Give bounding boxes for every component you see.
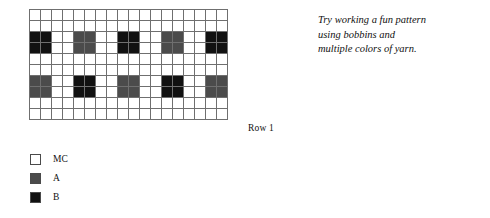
chart-cell[interactable] xyxy=(162,87,173,98)
chart-cell[interactable] xyxy=(206,32,217,43)
chart-cell[interactable] xyxy=(85,76,96,87)
chart-cell[interactable] xyxy=(96,87,107,98)
chart-cell[interactable] xyxy=(107,65,118,76)
chart-cell[interactable] xyxy=(184,76,195,87)
chart-cell[interactable] xyxy=(63,21,74,32)
chart-cell[interactable] xyxy=(74,10,85,21)
chart-cell[interactable] xyxy=(96,54,107,65)
chart-cell[interactable] xyxy=(206,109,217,120)
chart-cell[interactable] xyxy=(129,32,140,43)
chart-cell[interactable] xyxy=(162,10,173,21)
chart-cell[interactable] xyxy=(151,76,162,87)
chart-cell[interactable] xyxy=(52,21,63,32)
chart-cell[interactable] xyxy=(151,10,162,21)
chart-cell[interactable] xyxy=(162,32,173,43)
chart-cell[interactable] xyxy=(41,43,52,54)
chart-cell[interactable] xyxy=(30,32,41,43)
chart-cell[interactable] xyxy=(118,87,129,98)
chart-cell[interactable] xyxy=(184,109,195,120)
chart-cell[interactable] xyxy=(52,43,63,54)
chart-cell[interactable] xyxy=(52,10,63,21)
chart-cell[interactable] xyxy=(195,65,206,76)
chart-cell[interactable] xyxy=(195,21,206,32)
chart-cell[interactable] xyxy=(107,76,118,87)
chart-cell[interactable] xyxy=(195,32,206,43)
chart-cell[interactable] xyxy=(217,109,228,120)
chart-cell[interactable] xyxy=(217,43,228,54)
chart-cell[interactable] xyxy=(85,109,96,120)
chart-cell[interactable] xyxy=(129,65,140,76)
chart-cell[interactable] xyxy=(206,98,217,109)
chart-cell[interactable] xyxy=(30,43,41,54)
chart-cell[interactable] xyxy=(173,32,184,43)
chart-cell[interactable] xyxy=(217,32,228,43)
chart-cell[interactable] xyxy=(74,65,85,76)
chart-cell[interactable] xyxy=(173,87,184,98)
chart-cell[interactable] xyxy=(41,87,52,98)
chart-cell[interactable] xyxy=(96,65,107,76)
chart-cell[interactable] xyxy=(118,32,129,43)
chart-cell[interactable] xyxy=(107,21,118,32)
chart-cell[interactable] xyxy=(85,65,96,76)
chart-cell[interactable] xyxy=(129,76,140,87)
chart-cell[interactable] xyxy=(129,10,140,21)
chart-cell[interactable] xyxy=(118,65,129,76)
chart-cell[interactable] xyxy=(129,109,140,120)
chart-cell[interactable] xyxy=(184,98,195,109)
chart-cell[interactable] xyxy=(206,87,217,98)
chart-cell[interactable] xyxy=(184,10,195,21)
chart-cell[interactable] xyxy=(151,109,162,120)
chart-cell[interactable] xyxy=(118,54,129,65)
chart-cell[interactable] xyxy=(107,109,118,120)
chart-cell[interactable] xyxy=(96,43,107,54)
chart-cell[interactable] xyxy=(217,21,228,32)
chart-cell[interactable] xyxy=(195,76,206,87)
chart-cell[interactable] xyxy=(85,32,96,43)
chart-cell[interactable] xyxy=(74,76,85,87)
chart-cell[interactable] xyxy=(217,10,228,21)
chart-cell[interactable] xyxy=(52,87,63,98)
chart-cell[interactable] xyxy=(129,87,140,98)
chart-cell[interactable] xyxy=(173,65,184,76)
chart-cell[interactable] xyxy=(118,76,129,87)
chart-cell[interactable] xyxy=(85,98,96,109)
chart-cell[interactable] xyxy=(195,87,206,98)
chart-cell[interactable] xyxy=(96,21,107,32)
chart-cell[interactable] xyxy=(217,65,228,76)
chart-cell[interactable] xyxy=(74,32,85,43)
chart-cell[interactable] xyxy=(140,98,151,109)
chart-cell[interactable] xyxy=(206,76,217,87)
chart-cell[interactable] xyxy=(41,54,52,65)
chart-cell[interactable] xyxy=(162,54,173,65)
chart-cell[interactable] xyxy=(96,76,107,87)
chart-cell[interactable] xyxy=(173,21,184,32)
chart-cell[interactable] xyxy=(195,54,206,65)
chart-cell[interactable] xyxy=(41,10,52,21)
chart-cell[interactable] xyxy=(30,109,41,120)
chart-cell[interactable] xyxy=(30,76,41,87)
chart-cell[interactable] xyxy=(63,32,74,43)
chart-cell[interactable] xyxy=(96,32,107,43)
chart-cell[interactable] xyxy=(41,21,52,32)
chart-cell[interactable] xyxy=(140,43,151,54)
chart-cell[interactable] xyxy=(162,98,173,109)
chart-cell[interactable] xyxy=(173,43,184,54)
chart-cell[interactable] xyxy=(129,21,140,32)
chart-cell[interactable] xyxy=(52,65,63,76)
chart-cell[interactable] xyxy=(162,76,173,87)
chart-cell[interactable] xyxy=(85,21,96,32)
chart-cell[interactable] xyxy=(74,54,85,65)
chart-cell[interactable] xyxy=(74,98,85,109)
chart-cell[interactable] xyxy=(85,43,96,54)
chart-cell[interactable] xyxy=(96,98,107,109)
chart-cell[interactable] xyxy=(206,10,217,21)
chart-cell[interactable] xyxy=(52,76,63,87)
chart-cell[interactable] xyxy=(129,98,140,109)
chart-cell[interactable] xyxy=(217,98,228,109)
chart-cell[interactable] xyxy=(107,54,118,65)
chart-cell[interactable] xyxy=(129,43,140,54)
chart-cell[interactable] xyxy=(118,109,129,120)
chart-cell[interactable] xyxy=(96,109,107,120)
chart-cell[interactable] xyxy=(195,10,206,21)
chart-cell[interactable] xyxy=(30,10,41,21)
